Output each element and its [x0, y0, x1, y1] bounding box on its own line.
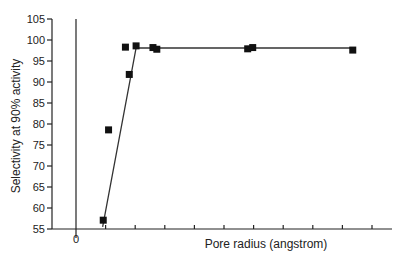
x-axis-title: Pore radius (angstrom)	[205, 237, 328, 251]
y-tick-label: 55	[33, 223, 45, 235]
y-tick-label: 65	[33, 181, 45, 193]
y-tick-label: 85	[33, 97, 45, 109]
y-ticks: 556065707580859095100105	[27, 13, 52, 235]
y-tick-label: 105	[27, 13, 45, 25]
data-point	[126, 71, 133, 78]
y-tick-label: 70	[33, 160, 45, 172]
chart: 556065707580859095100105 0 Pore radius (…	[0, 0, 412, 263]
fit-polyline	[103, 48, 355, 227]
data-points	[100, 42, 357, 223]
axes	[52, 19, 392, 238]
y-axis-title: Selectivity at 90% activity	[9, 59, 23, 194]
data-point	[153, 46, 160, 53]
x-tick-label: 0	[73, 233, 79, 245]
y-tick-label: 80	[33, 118, 45, 130]
y-tick-label: 60	[33, 202, 45, 214]
data-point	[133, 42, 140, 49]
y-tick-label: 75	[33, 139, 45, 151]
data-point	[349, 47, 356, 54]
fit-line	[103, 48, 355, 227]
y-tick-label: 90	[33, 76, 45, 88]
data-point	[105, 126, 112, 133]
y-tick-label: 95	[33, 55, 45, 67]
data-point	[122, 44, 129, 51]
y-tick-label: 100	[27, 34, 45, 46]
data-point	[100, 217, 107, 224]
data-point	[249, 44, 256, 51]
